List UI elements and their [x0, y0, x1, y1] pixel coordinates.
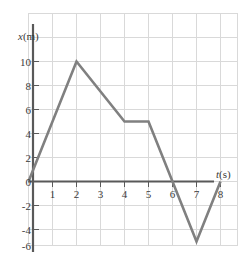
x-tick-label-2: 2 [74, 189, 80, 200]
y-tick-label-4: 4 [26, 128, 32, 139]
x-tick-label-3: 3 [98, 189, 104, 200]
x-tick-label-5: 5 [146, 189, 152, 200]
y-axis-title-unit: (m) [23, 30, 39, 42]
x-axis-title: t(s) [216, 169, 231, 180]
x-axis-title-unit: (s) [219, 168, 231, 180]
grid-horizontal-lines [29, 14, 238, 246]
y-tick-label-2: 2 [26, 152, 32, 163]
y-axis [33, 24, 39, 252]
x-tick-label-1: 1 [50, 189, 56, 200]
y-axis-title: x(m) [18, 31, 39, 42]
x-axis [28, 182, 221, 188]
position-time-chart: 10 8 6 4 2 0 -2 -4 -6 1 2 3 4 5 6 7 8 x(… [0, 0, 251, 261]
x-tick-label-7: 7 [194, 189, 200, 200]
grid-vertical-lines [29, 13, 238, 246]
x-tick-label-6: 6 [170, 189, 176, 200]
y-tick-label-10: 10 [20, 56, 31, 67]
y-tick-label-6: 6 [26, 104, 32, 115]
x-tick-label-8: 8 [218, 189, 224, 200]
y-tick-label-neg2: -2 [22, 200, 31, 211]
y-tick-label-8: 8 [26, 80, 32, 91]
y-tick-label-neg6: -6 [22, 240, 31, 251]
y-tick-label-0: 0 [26, 176, 32, 187]
x-tick-label-4: 4 [122, 189, 128, 200]
y-tick-label-neg4: -4 [22, 224, 31, 235]
